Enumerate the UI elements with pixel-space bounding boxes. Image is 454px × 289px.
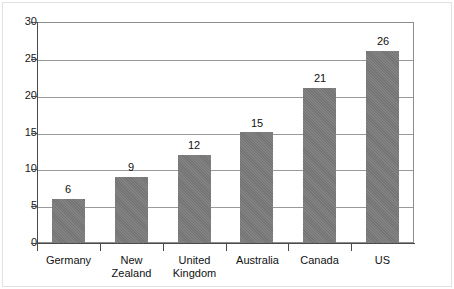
bar [52, 199, 85, 243]
x-tick-mark [226, 244, 227, 251]
bar-value-label: 9 [111, 162, 151, 173]
x-tick-mark [37, 244, 38, 251]
x-tick-mark [288, 244, 289, 251]
x-tick-label: New Zealand [100, 254, 163, 280]
x-tick-label: United Kingdom [163, 254, 226, 280]
bar [115, 177, 148, 243]
bar-chart: 051015202530 6912152126 GermanyNew Zeala… [0, 0, 454, 289]
bar-value-label: 26 [363, 36, 403, 47]
bar [303, 88, 336, 243]
x-tick-mark [100, 244, 101, 251]
bar-value-label: 21 [300, 73, 340, 84]
y-tick-label-15: 15 [11, 127, 37, 138]
bar-value-label: 12 [174, 140, 214, 151]
bar [366, 51, 399, 243]
x-tick-mark [163, 244, 164, 251]
bar [240, 132, 273, 243]
x-tick-label: Canada [288, 254, 351, 267]
bar-series [37, 22, 414, 243]
bar-value-label: 6 [48, 184, 88, 195]
x-tick-mark [351, 244, 352, 251]
x-tick-label: US [351, 254, 414, 267]
bar-value-label: 15 [237, 118, 277, 129]
x-tick-label: Australia [226, 254, 289, 267]
x-tick-label: Germany [37, 254, 100, 267]
bar [178, 155, 211, 243]
